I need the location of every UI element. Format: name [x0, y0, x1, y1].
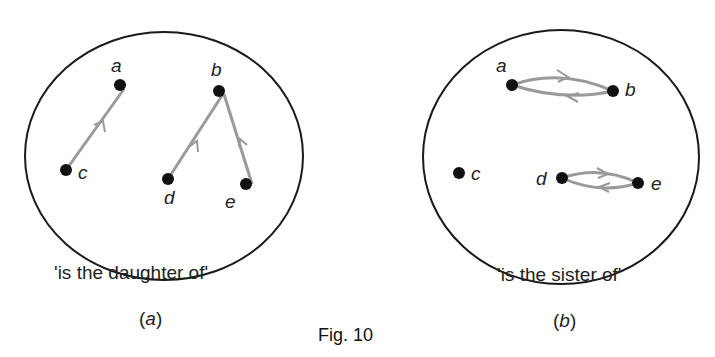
edge-c-to-a — [66, 89, 124, 170]
subcaption-b: (b) — [553, 311, 576, 330]
node-label-b: b — [211, 60, 222, 79]
node-label-e: e — [225, 192, 236, 211]
node-d — [162, 173, 174, 185]
panel-a-diagram — [25, 32, 303, 280]
relation-caption-b: 'is the sister of' — [497, 265, 621, 284]
panel-b-diagram — [423, 30, 699, 284]
node-c — [60, 164, 72, 176]
node-b — [607, 85, 619, 97]
node-e — [632, 177, 644, 189]
node-e — [240, 178, 252, 190]
node-label-c: c — [78, 163, 88, 182]
arrow-head-icon — [557, 70, 568, 82]
edge-d-to-b — [168, 94, 223, 179]
node-b — [213, 85, 225, 97]
node-a — [114, 79, 126, 91]
node-label-a: a — [111, 56, 122, 75]
node-label-c: c — [471, 164, 481, 183]
set-boundary-b — [423, 30, 699, 284]
node-label-a: a — [496, 56, 507, 75]
relation-caption-a: 'is the daughter of' — [54, 263, 208, 282]
figure-title: Fig. 10 — [318, 326, 373, 344]
node-c — [453, 167, 465, 179]
subcaption-a: (a) — [139, 309, 162, 328]
set-boundary-a — [25, 32, 303, 280]
node-a — [506, 79, 518, 91]
node-label-d: d — [536, 169, 547, 188]
edge-e-to-b — [224, 94, 252, 184]
node-label-b: b — [625, 80, 636, 99]
relation-diagram — [0, 0, 715, 357]
node-label-e: e — [651, 174, 662, 193]
subcaption-letter: a — [145, 308, 156, 329]
node-label-d: d — [164, 188, 175, 207]
node-d — [556, 172, 568, 184]
subcaption-letter: b — [559, 310, 570, 331]
